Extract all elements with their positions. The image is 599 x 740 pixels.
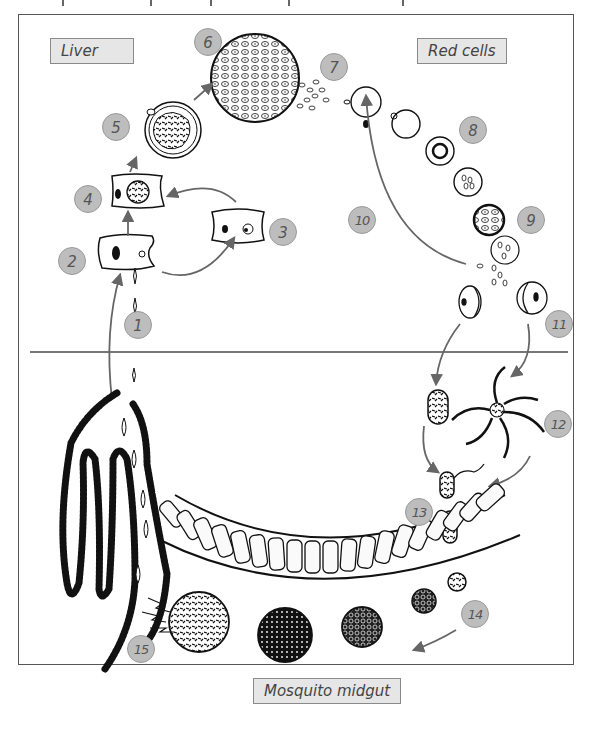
step-badge-4: 4 [74,185,102,213]
hepatocyte-3 [212,209,264,243]
step-badge-5: 5 [102,113,130,141]
released-merozoites-7 [297,80,329,110]
arrow-3-to-4 [168,188,236,202]
step-badge-13: 13 [405,498,433,526]
oocyst-medium [412,589,436,613]
rbc-schizont-9 [474,205,504,235]
step-badge-8: 8 [459,116,487,144]
region-label-red-cells: Red cells [417,38,507,64]
rbc-rupture [491,236,519,264]
macrogamete [428,390,448,424]
hepatocyte-2 [98,234,154,269]
arrow-5-to-6 [194,84,212,100]
step-badge-3: 3 [269,218,297,246]
oocyst-small [448,573,466,591]
region-label-liver: Liver [50,38,134,64]
arrow-11-to-female-gamete [436,324,460,384]
rbc-ring-8 [426,137,454,165]
step-badge-14: 14 [461,600,489,628]
step-badge-1: 1 [124,311,152,339]
arrow-2-to-3 [162,238,234,275]
arrow-4-to-5 [130,158,136,172]
arrow-14 [414,630,456,650]
step-badge-12: 12 [544,410,572,438]
step-badge-9: 9 [517,206,545,234]
step-badge-11: 11 [545,310,573,338]
ruptured-schizont-6 [211,34,299,122]
malaria-lifecycle-diagram: Liver Red cells Mosquito midgut 1 2 3 4 … [0,0,599,740]
arrow-microgamete-to-zygote [490,456,530,486]
arrow-1-to-2 [109,275,120,400]
region-label-mosquito-midgut: Mosquito midgut [253,678,401,704]
step-badge-15: 15 [127,635,155,663]
exflagellation-12 [452,367,544,458]
arrow-female-to-zygote [423,426,438,472]
step-badge-10: 10 [348,206,376,234]
step-badge-7: 7 [320,53,348,81]
step-badge-6: 6 [194,28,222,56]
gametocytes-11 [459,282,547,318]
oocyst-mature [258,608,312,662]
arrow-11-to-microgametes [512,324,529,376]
diagram-artwork [0,0,599,740]
step-badge-2: 2 [58,247,86,275]
oocyst-large [342,607,382,647]
oocyst-rupturing-15 [169,592,229,652]
